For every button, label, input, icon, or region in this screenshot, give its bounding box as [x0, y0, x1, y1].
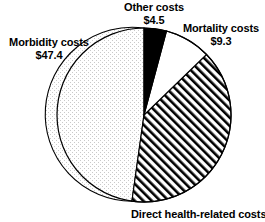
- slice-label-morbidity: Morbidity costs $47.4: [1, 36, 97, 62]
- slice-label-direct-health-related: Direct health-related costs: [131, 208, 265, 221]
- slice-label-mortality-name: Mortality costs: [183, 22, 259, 34]
- pie-chart: Other costs $4.5 Mortality costs $9.3 Mo…: [0, 0, 265, 222]
- slice-label-direct-name: Direct health-related costs: [131, 208, 265, 220]
- slice-label-other-name: Other costs: [124, 1, 184, 13]
- slice-label-mortality-value: $9.3: [178, 35, 264, 48]
- slice-label-morbidity-value: $47.4: [1, 49, 97, 62]
- slice-label-morbidity-name: Morbidity costs: [9, 36, 89, 48]
- slice-label-mortality: Mortality costs $9.3: [178, 22, 264, 48]
